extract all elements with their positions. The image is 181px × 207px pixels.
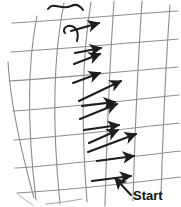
grid-vertical-curved-lines — [8, 2, 91, 204]
vector-arrow-2 — [97, 156, 134, 161]
grid-h-line — [9, 67, 178, 81]
grid-v-line — [161, 5, 170, 196]
grid-v-line — [133, 1, 142, 201]
grid-vertical-straight-lines — [105, 1, 170, 206]
vector-arrow-7 — [82, 102, 115, 106]
squiggle-hook-icon — [64, 26, 78, 41]
start-label: Start — [133, 188, 163, 203]
vector-arrow-11 — [75, 48, 101, 53]
pen-squiggle-group — [48, 5, 83, 41]
figure-canvas: Start — [0, 0, 181, 207]
vector-arrow-10 — [74, 54, 100, 64]
grid-h-line — [15, 151, 180, 168]
grid-v-curve — [83, 2, 91, 202]
vector-arrow-8 — [79, 81, 121, 101]
start-pointer-arrow — [115, 178, 131, 195]
grid-fragment — [18, 194, 33, 205]
vector-arrow-1 — [92, 176, 131, 181]
vector-arrow-3 — [88, 134, 136, 152]
grid-v-curve — [55, 3, 64, 204]
grid-h-line — [13, 95, 179, 111]
grid-horizontal-lines — [9, 11, 180, 193]
squiggle-top-icon — [48, 5, 83, 10]
diagram-svg: Start — [0, 0, 181, 207]
grid-fragment — [46, 199, 82, 204]
vector-arrow-5 — [84, 125, 119, 130]
grid-h-line — [14, 123, 179, 140]
grid-v-curve — [29, 16, 37, 200]
grid-edge-fragments — [18, 194, 82, 205]
